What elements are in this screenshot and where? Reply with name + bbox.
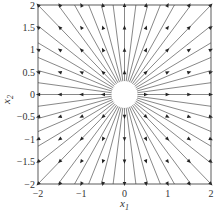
arrowhead-icon bbox=[165, 181, 168, 186]
y-tick-labels: 21.510.50−0.5−1−1.5−2 bbox=[17, 0, 35, 190]
arrowhead-icon bbox=[165, 3, 168, 8]
arrowhead-icon bbox=[144, 25, 147, 30]
arrowhead-icon bbox=[165, 114, 170, 117]
arrowhead-icon bbox=[36, 159, 40, 163]
arrowhead-icon bbox=[58, 137, 62, 141]
arrowhead-icon bbox=[144, 48, 147, 53]
arrowhead-icon bbox=[187, 115, 192, 118]
arrowhead-icon bbox=[36, 137, 41, 140]
arrowhead-icon bbox=[102, 159, 105, 164]
arrowhead-icon bbox=[144, 159, 147, 164]
arrowhead-icon bbox=[187, 181, 191, 185]
arrowhead-icon bbox=[58, 115, 63, 118]
arrowhead-icon bbox=[187, 3, 191, 7]
arrowhead-icon bbox=[166, 93, 170, 97]
y-axis-label: x2 bbox=[0, 95, 15, 105]
svg-text:−1: −1 bbox=[76, 188, 87, 199]
arrowhead-icon bbox=[123, 160, 127, 164]
arrowhead-icon bbox=[79, 114, 84, 117]
svg-text:−2: −2 bbox=[24, 179, 35, 190]
svg-text:0: 0 bbox=[30, 89, 35, 100]
arrowhead-icon bbox=[165, 159, 169, 163]
trajectories bbox=[38, 5, 211, 184]
arrowhead-icon bbox=[208, 159, 212, 163]
svg-text:−2: −2 bbox=[33, 188, 44, 199]
x-axis-label: x1 bbox=[119, 197, 129, 212]
arrowhead-icon bbox=[208, 137, 213, 140]
svg-text:0.5: 0.5 bbox=[23, 67, 36, 78]
svg-text:−1.5: −1.5 bbox=[17, 156, 35, 167]
arrowhead-icon bbox=[102, 25, 105, 30]
arrowhead-icon bbox=[123, 25, 127, 29]
arrowhead-icon bbox=[80, 181, 83, 186]
arrowhead-icon bbox=[187, 93, 191, 97]
arrowhead-icon bbox=[165, 71, 170, 74]
arrowhead-icon bbox=[102, 137, 105, 142]
svg-text:−0.5: −0.5 bbox=[17, 111, 35, 122]
arrowhead-icon bbox=[123, 115, 127, 119]
arrowhead-icon bbox=[58, 49, 62, 53]
arrowhead-icon bbox=[144, 137, 147, 142]
arrowhead-icon bbox=[123, 137, 127, 141]
svg-text:2: 2 bbox=[209, 188, 214, 199]
arrowhead-icon bbox=[36, 49, 41, 52]
arrowhead-icon bbox=[187, 137, 191, 141]
arrowhead-icon bbox=[79, 71, 84, 74]
arrowhead-icon bbox=[36, 26, 40, 30]
arrowhead-icon bbox=[123, 48, 127, 52]
arrowhead-icon bbox=[165, 26, 169, 30]
phase-portrait: −2−1012 21.510.50−0.5−1−1.5−2 x1 x2 bbox=[0, 0, 221, 212]
arrowhead-icon bbox=[80, 26, 84, 30]
arrowhead-icon bbox=[58, 3, 62, 7]
svg-text:−1: −1 bbox=[24, 134, 35, 145]
arrowhead-icon bbox=[187, 71, 192, 74]
svg-text:1.5: 1.5 bbox=[23, 22, 36, 33]
arrowhead-icon bbox=[144, 93, 148, 97]
arrowhead-icon bbox=[79, 93, 83, 97]
arrowhead-icon bbox=[102, 48, 105, 53]
svg-text:1: 1 bbox=[165, 188, 170, 199]
arrowhead-icon bbox=[58, 181, 62, 185]
arrowhead-icon bbox=[58, 93, 62, 97]
arrowhead-icon bbox=[80, 159, 84, 163]
arrowhead-icon bbox=[208, 49, 213, 52]
arrowhead-icon bbox=[101, 93, 105, 97]
arrowhead-icon bbox=[80, 3, 83, 8]
svg-text:1: 1 bbox=[30, 44, 35, 55]
arrowhead-icon bbox=[187, 49, 191, 53]
arrowhead-icon bbox=[123, 70, 127, 74]
arrowhead-icon bbox=[208, 26, 212, 30]
svg-text:2: 2 bbox=[30, 0, 35, 11]
arrowhead-icon bbox=[58, 71, 63, 74]
